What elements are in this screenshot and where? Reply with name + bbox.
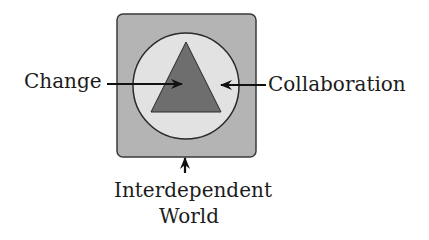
collaboration-label: Collaboration [268,74,406,94]
interdependent-world-label: Interdependent World [114,177,264,229]
interdependent-world-label-line2: World [114,203,264,229]
interdependent-world-label-line1: Interdependent [114,177,264,203]
change-label: Change [24,71,102,91]
nested-concept-diagram: Change Collaboration Interdependent Worl… [0,0,429,240]
